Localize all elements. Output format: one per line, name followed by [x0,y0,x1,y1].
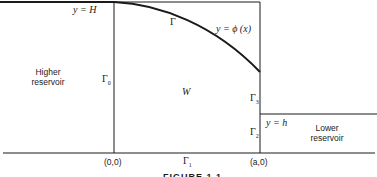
label-region-W: W [182,87,190,97]
label-lower-reservoir: Lower reservoir [305,124,349,144]
gamma0-subscript: 0 [108,80,111,86]
lower-reservoir-line2: reservoir [305,134,349,144]
label-gamma0: Γ0 [102,74,111,86]
label-higher-reservoir: Higher reservoir [26,68,70,88]
label-gamma-curve: Γ [170,17,176,27]
label-gamma3: Γ3 [250,93,259,105]
label-point-a: (a,0) [250,158,267,168]
label-gamma2: Γ2 [250,127,259,139]
label-y-equals-H: y = H [73,5,96,15]
label-gamma1: Γ1 [183,156,192,168]
gamma1-subscript: 1 [189,162,192,168]
free-surface-curve [114,2,260,72]
gamma2-subscript: 2 [256,133,259,139]
figure-caption: FIGURE 1.1 [163,172,222,177]
label-y-equals-h: y = h [266,118,287,128]
higher-reservoir-line2: reservoir [26,78,70,88]
label-origin: (0,0) [104,158,121,168]
gamma3-subscript: 3 [256,99,259,105]
label-curve-equation: y = ϕ (x) [216,24,251,34]
